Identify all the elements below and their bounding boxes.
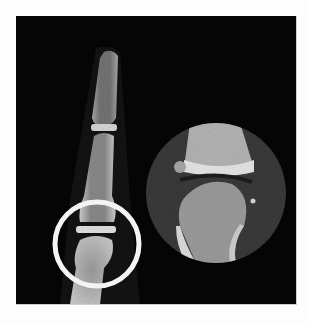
xray-panel [16,16,297,305]
xray-image [16,16,296,304]
magnified-inset [146,123,286,263]
